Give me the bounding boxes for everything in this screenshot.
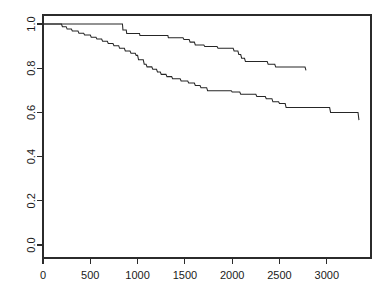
y-axis: 0.00.20.40.60.81.0 (25, 16, 43, 252)
y-tick-label: 0.6 (25, 105, 37, 120)
y-tick-label: 1.0 (25, 16, 37, 31)
x-tick-label: 2000 (220, 269, 244, 281)
x-tick-label: 2500 (267, 269, 291, 281)
y-tick-label: 0.8 (25, 61, 37, 76)
y-tick-label: 0.2 (25, 193, 37, 208)
x-tick-label: 1500 (173, 269, 197, 281)
x-tick-label: 500 (81, 269, 99, 281)
survival-curve-upper-curve (43, 24, 306, 70)
plot-canvas: 0.00.20.40.60.81.0 050010001500200025003… (0, 0, 389, 303)
y-tick-label: 0.4 (25, 149, 37, 164)
survival-curves (43, 24, 359, 120)
kaplan-meier-plot: 0.00.20.40.60.81.0 050010001500200025003… (0, 0, 389, 303)
x-axis: 050010001500200025003000 (40, 258, 339, 281)
plot-box-border (43, 15, 371, 258)
x-tick-label: 3000 (315, 269, 339, 281)
plot-frame (43, 15, 371, 258)
x-tick-label: 0 (40, 269, 46, 281)
survival-curve-lower-curve (43, 24, 359, 120)
x-tick-label: 1000 (125, 269, 149, 281)
y-tick-label: 0.0 (25, 237, 37, 252)
